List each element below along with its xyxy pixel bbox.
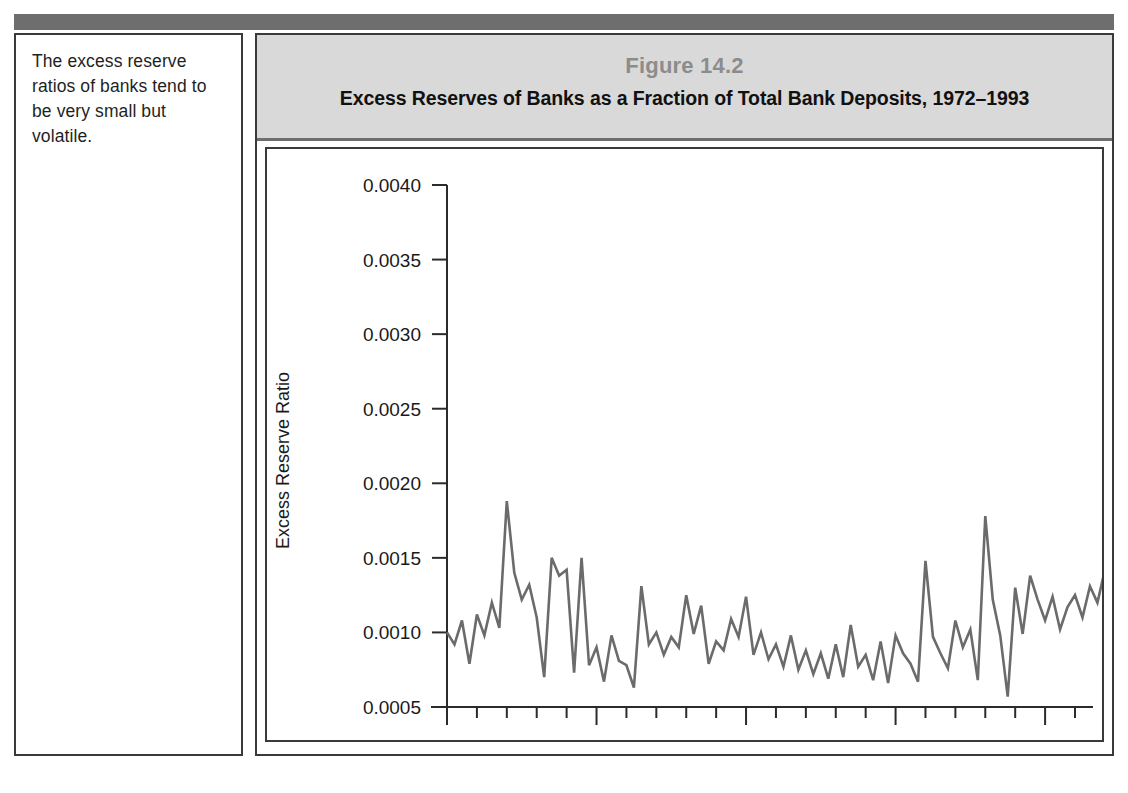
top-rule <box>14 14 1114 30</box>
y-axis-ticks: 0.00050.00100.00150.00200.00250.00300.00… <box>363 175 447 718</box>
y-tick-label: 0.0015 <box>363 548 421 569</box>
caption-box: The excess reserve ratios of banks tend … <box>14 33 243 756</box>
excess-reserve-ratio-series <box>447 207 1102 696</box>
plot-frame: Excess Reserve Ratio 0.00050.00100.00150… <box>265 147 1104 742</box>
y-tick-label: 0.0040 <box>363 175 421 196</box>
x-tick-label: '92 <box>1033 738 1058 740</box>
figure-title-band: Figure 14.2 Excess Reserves of Banks as … <box>257 35 1112 141</box>
figure-box: Figure 14.2 Excess Reserves of Banks as … <box>255 33 1114 756</box>
y-axis-title: Excess Reserve Ratio <box>273 372 293 549</box>
x-tick-label: '82 <box>734 738 759 740</box>
x-tick-label: '87 <box>883 738 908 740</box>
excess-reserve-ratio-line-chart: Excess Reserve Ratio 0.00050.00100.00150… <box>267 149 1102 740</box>
y-tick-label: 0.0020 <box>363 473 421 494</box>
x-axis-ticks: '72'77'82'87'92 <box>435 707 1075 740</box>
x-tick-label: '77 <box>584 738 609 740</box>
figure-number-label: Figure 14.2 <box>257 53 1112 79</box>
figure-title: Excess Reserves of Banks as a Fraction o… <box>257 87 1112 110</box>
y-tick-label: 0.0035 <box>363 250 421 271</box>
y-tick-label: 0.0005 <box>363 697 421 718</box>
y-tick-label: 0.0030 <box>363 324 421 345</box>
y-axis-title-label: Excess Reserve Ratio <box>273 372 293 549</box>
y-tick-label: 0.0025 <box>363 399 421 420</box>
caption-text: The excess reserve ratios of banks tend … <box>32 49 228 149</box>
y-tick-label: 0.0010 <box>363 622 421 643</box>
x-tick-label: '72 <box>435 738 460 740</box>
